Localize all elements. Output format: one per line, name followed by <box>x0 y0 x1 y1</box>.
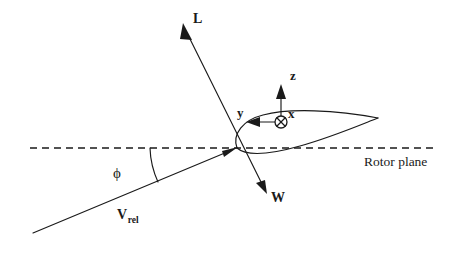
resultant-arrowhead-icon <box>256 180 267 194</box>
resultant-label: W <box>271 190 285 205</box>
axis-y-label: y <box>237 105 244 120</box>
inflow-angle-label: ϕ <box>113 165 121 181</box>
airfoil-upper-surface <box>236 111 378 148</box>
diagram-root: L W z y x ϕ Rotor plane Vrel <box>0 0 458 255</box>
inflow-angle-arc <box>150 148 158 182</box>
blade-element-diagram: L W z y x ϕ Rotor plane Vrel <box>0 0 458 255</box>
rotor-plane-label: Rotor plane <box>364 154 427 169</box>
lift-arrowhead-icon <box>180 23 192 40</box>
axis-z-label: z <box>290 68 296 83</box>
relative-velocity-label: Vrel <box>117 207 139 225</box>
axis-z-arrowhead-icon <box>276 84 286 99</box>
axis-x-label: x <box>288 106 295 121</box>
relative-velocity-label-main: V <box>117 207 127 222</box>
relative-velocity-label-subscript: rel <box>128 215 139 225</box>
lift-label: L <box>193 11 202 26</box>
